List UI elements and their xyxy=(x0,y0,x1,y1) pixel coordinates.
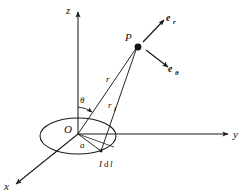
current-element-label-group: I d l xyxy=(98,159,113,169)
field-point-P-dot xyxy=(135,44,142,51)
unit-vector-group xyxy=(143,20,168,67)
diagram-canvas: z y x O P e r e θ r r 1 θ a I d l xyxy=(0,0,252,193)
loop-radius-label: a xyxy=(80,140,85,150)
line-r1-element-to-P xyxy=(101,47,137,151)
theta-angle-label: θ xyxy=(80,95,85,105)
line-r-origin-to-P xyxy=(78,47,137,134)
e-theta-label-group: e θ xyxy=(168,63,179,77)
x-axis-label: x xyxy=(3,180,9,192)
e-r-subscript-label: r xyxy=(173,18,176,26)
field-point-label: P xyxy=(124,31,132,43)
r1-subscript-label: 1 xyxy=(113,105,117,113)
r-length-label: r xyxy=(106,74,110,84)
axis-group xyxy=(16,12,228,184)
theta-angle-arc xyxy=(78,107,92,112)
e-theta-subscript-label: θ xyxy=(175,69,179,77)
e-r-base-label: e xyxy=(166,12,171,23)
e-r-arrow[interactable] xyxy=(143,20,164,42)
differential-symbol-label: d xyxy=(104,159,109,169)
r1-label-group: r 1 xyxy=(108,100,117,113)
length-symbol-label: l xyxy=(110,159,113,169)
origin-label: O xyxy=(64,123,72,135)
e-theta-arrow[interactable] xyxy=(146,50,168,67)
e-r-label-group: e r xyxy=(166,12,176,26)
e-theta-base-label: e xyxy=(168,63,173,74)
vector-lines-group xyxy=(78,47,137,151)
physics-diagram-figure: z y x O P e r e θ r r 1 θ a I d l xyxy=(0,0,252,193)
z-axis-label: z xyxy=(65,4,71,16)
y-axis-label: y xyxy=(232,128,238,140)
current-symbol-label: I xyxy=(98,159,103,169)
x-axis-line xyxy=(16,134,78,184)
r1-base-label: r xyxy=(108,100,112,110)
current-element-dot xyxy=(100,150,103,153)
